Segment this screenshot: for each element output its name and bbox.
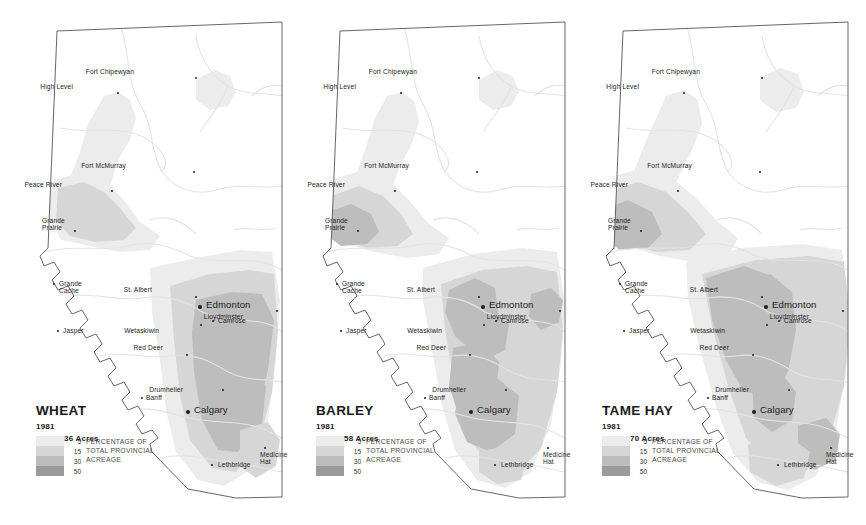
legend-swatch-50	[602, 466, 630, 476]
city-label-fort-mcmurray: Fort McMurray	[647, 162, 692, 169]
title-block-tame-hay: TAME HAY19813,480,670 Acres5153050PERCEN…	[602, 404, 752, 444]
city-label-fort-mcmurray: Fort McMurray	[364, 162, 409, 169]
legend-caption: PERCENTAGE OFTOTAL PROVINCIALACREAGE	[652, 436, 720, 465]
legend-caption-line: PERCENTAGE OF	[652, 437, 720, 446]
legend-color-ramp	[36, 436, 64, 476]
legend-value: 15	[632, 447, 647, 457]
city-label-drumheller: Drumheller	[149, 386, 183, 393]
city-label-lethbridge: Lethbridge	[501, 461, 534, 468]
title-block-wheat: WHEAT19816,705,436 Acres5153050PERCENTAG…	[36, 404, 186, 444]
city-label-lethbridge: Lethbridge	[218, 461, 251, 468]
city-label-calgary: Calgary	[760, 406, 794, 413]
legend-value: 30	[66, 457, 81, 467]
legend-caption-line: TOTAL PROVINCIAL	[366, 446, 434, 455]
crop-year: 1981	[316, 422, 466, 432]
city-label-calgary: Calgary	[194, 406, 228, 413]
legend-swatch-50	[36, 466, 64, 476]
city-label-red-deer: Red Deer	[417, 344, 446, 351]
city-label-wetaskiwin: Wetaskiwin	[124, 327, 159, 334]
legend-swatch-5	[602, 436, 630, 446]
city-label-banff: Banff	[146, 394, 162, 401]
legend-barley: 5153050PERCENTAGE OFTOTAL PROVINCIALACRE…	[316, 436, 434, 477]
legend-swatch-15	[316, 446, 344, 456]
city-label-jasper: Jasper	[346, 327, 367, 334]
city-label-edmonton: Edmonton	[489, 301, 534, 308]
legend-value: 50	[66, 467, 81, 477]
crop-year: 1981	[602, 422, 752, 432]
legend-value: 5	[66, 437, 81, 447]
legend-value: 15	[66, 447, 81, 457]
city-label-camrose: Camrose	[501, 317, 529, 324]
city-label-camrose: Camrose	[784, 317, 812, 324]
legend-color-ramp	[316, 436, 344, 476]
city-label-peace-river: Peace River	[590, 181, 628, 188]
legend-swatch-50	[316, 466, 344, 476]
crop-title: WHEAT	[36, 404, 186, 418]
city-label-edmonton: Edmonton	[206, 301, 251, 308]
legend-caption-line: ACREAGE	[366, 455, 434, 464]
city-label-banff: Banff	[712, 394, 728, 401]
city-label-fort-mcmurray: Fort McMurray	[81, 162, 126, 169]
city-label-red-deer: Red Deer	[134, 344, 163, 351]
city-label-grande-prairie: Grande Prairie	[608, 217, 631, 232]
city-label-banff: Banff	[429, 394, 445, 401]
legend-value-list: 5153050	[632, 436, 647, 477]
legend-value: 30	[346, 457, 361, 467]
legend-caption-line: PERCENTAGE OF	[366, 437, 434, 446]
title-block-barley: BARLEY19816,432,958 Acres5153050PERCENTA…	[316, 404, 466, 444]
legend-swatch-5	[36, 436, 64, 446]
city-label-peace-river: Peace River	[24, 181, 62, 188]
map-panel-tame-hay: Fort ChipewyanHigh LevelFort McMurrayPea…	[566, 0, 854, 525]
legend-caption: PERCENTAGE OFTOTAL PROVINCIALACREAGE	[86, 436, 154, 465]
city-label-peace-river: Peace River	[307, 181, 345, 188]
city-label-st-albert: St. Albert	[124, 286, 152, 293]
legend-swatch-15	[36, 446, 64, 456]
city-label-fort-chipewyan: Fort Chipewyan	[86, 68, 134, 75]
city-label-wetaskiwin: Wetaskiwin	[690, 327, 725, 334]
city-label-drumheller: Drumheller	[432, 386, 466, 393]
city-label-fort-chipewyan: Fort Chipewyan	[369, 68, 417, 75]
legend-value: 30	[632, 457, 647, 467]
city-label-red-deer: Red Deer	[700, 344, 729, 351]
city-label-grande-prairie: Grande Prairie	[325, 217, 348, 232]
legend-color-ramp	[602, 436, 630, 476]
legend-wheat: 5153050PERCENTAGE OFTOTAL PROVINCIALACRE…	[36, 436, 154, 477]
legend-swatch-30	[316, 456, 344, 466]
city-label-grande-cache: Grande Cache	[59, 280, 82, 295]
legend-value: 5	[346, 437, 361, 447]
city-label-drumheller: Drumheller	[715, 386, 749, 393]
city-label-jasper: Jasper	[629, 327, 650, 334]
city-label-calgary: Calgary	[477, 406, 511, 413]
city-label-lethbridge: Lethbridge	[784, 461, 817, 468]
legend-swatch-30	[602, 456, 630, 466]
legend-caption-line: PERCENTAGE OF	[86, 437, 154, 446]
city-label-high-level: High Level	[323, 83, 356, 90]
legend-caption-line: ACREAGE	[652, 455, 720, 464]
crop-year: 1981	[36, 422, 186, 432]
crop-title: BARLEY	[316, 404, 466, 418]
city-label-grande-cache: Grande Cache	[342, 280, 365, 295]
crop-title: TAME HAY	[602, 404, 752, 418]
legend-caption-line: TOTAL PROVINCIAL	[86, 446, 154, 455]
legend-value: 50	[632, 467, 647, 477]
city-label-st-albert: St. Albert	[690, 286, 718, 293]
map-panel-barley: Fort ChipewyanHigh LevelFort McMurrayPea…	[283, 0, 571, 525]
legend-value: 5	[632, 437, 647, 447]
legend-swatch-5	[316, 436, 344, 446]
legend-value-list: 5153050	[66, 436, 81, 477]
city-label-high-level: High Level	[40, 83, 73, 90]
city-label-edmonton: Edmonton	[772, 301, 817, 308]
map-panel-wheat: Fort ChipewyanHigh LevelFort McMurrayPea…	[0, 0, 288, 525]
city-label-fort-chipewyan: Fort Chipewyan	[652, 68, 700, 75]
city-label-grande-prairie: Grande Prairie	[42, 217, 65, 232]
city-label-grande-cache: Grande Cache	[625, 280, 648, 295]
legend-tame-hay: 5153050PERCENTAGE OFTOTAL PROVINCIALACRE…	[602, 436, 720, 477]
legend-caption: PERCENTAGE OFTOTAL PROVINCIALACREAGE	[366, 436, 434, 465]
city-label-high-level: High Level	[606, 83, 639, 90]
legend-caption-line: TOTAL PROVINCIAL	[652, 446, 720, 455]
city-label-st-albert: St. Albert	[407, 286, 435, 293]
city-label-wetaskiwin: Wetaskiwin	[407, 327, 442, 334]
legend-swatch-30	[36, 456, 64, 466]
legend-swatch-15	[602, 446, 630, 456]
legend-value-list: 5153050	[346, 436, 361, 477]
